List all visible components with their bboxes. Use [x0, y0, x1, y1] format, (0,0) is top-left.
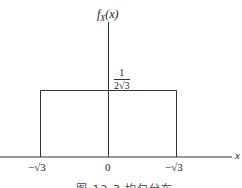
height-denominator: 2√3: [114, 80, 130, 91]
figure-caption: 图 12.3 均匀分布: [76, 180, 174, 188]
tick-left: −√3: [28, 162, 46, 173]
height-numerator: 1: [114, 68, 130, 80]
tick-right: −√3: [165, 162, 183, 173]
y-axis-label: fX(x): [97, 8, 119, 23]
tick-zero: 0: [105, 162, 111, 173]
x-axis-label: x: [235, 150, 240, 161]
height-label: 1 2√3: [114, 68, 130, 91]
uniform-pdf-plot: [0, 0, 242, 188]
